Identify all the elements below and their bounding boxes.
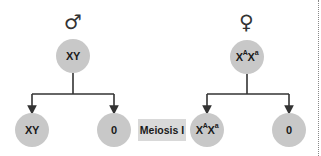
male-parent-node: XY <box>56 39 90 73</box>
female-product-genotype: XAXa <box>196 124 218 136</box>
male-parent-genotype: XY <box>66 50 80 62</box>
female-parent-node: XAXa <box>230 40 264 74</box>
female-symbol-icon: ♀ <box>239 12 254 32</box>
female-product-genotype: 0 <box>286 124 292 136</box>
meiosis-stage-label: Meiosis I <box>138 119 186 141</box>
male-product-xy-node: XY <box>15 113 49 147</box>
dotted-border-divider <box>318 0 319 156</box>
male-product-genotype: XY <box>25 124 39 136</box>
meiosis-diagram: ♂ ♀ XY XAXa XY 0 Meiosis I XAXa 0 <box>0 0 321 156</box>
female-parent-genotype: XAXa <box>236 51 258 63</box>
female-product-xx-node: XAXa <box>190 113 224 147</box>
male-product-genotype: 0 <box>111 124 117 136</box>
stage-label-text: Meiosis I <box>140 124 184 136</box>
male-product-null-node: 0 <box>97 113 131 147</box>
male-symbol-icon: ♂ <box>64 12 82 32</box>
female-product-null-node: 0 <box>272 113 306 147</box>
